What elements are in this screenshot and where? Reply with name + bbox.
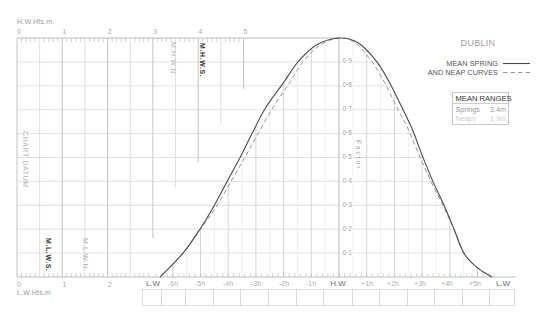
factor-tick: 0·6 [343,129,353,136]
mean-ranges-box: MEAN RANGES Springs 3.4m Neaps 1.9m [453,93,512,125]
time-label: +2h [387,280,399,287]
factor-tick: 0·3 [343,201,353,208]
time-axis-labels: L.W -6h -5h -4h -3h -2h -1h H.W +1h +2h … [146,279,511,288]
mlwn-label: M.L.W.N. [82,238,89,272]
lw-tick: 2 [108,281,112,288]
legend: MEAN SPRING AND NEAP CURVES [428,59,530,77]
time-label: +4h [441,280,453,287]
lw-heights-label: L.W.Hts.m [17,289,51,296]
time-label: -1h [306,280,316,287]
time-label: +5h [469,280,481,287]
time-entry-cell[interactable] [353,290,380,306]
factor-tick: 0·2 [343,225,353,232]
mhws-label: M.H.W.S. [199,43,206,77]
hw-tick: 5 [244,28,248,35]
legend-spring-label: MEAN SPRING [446,59,498,68]
time-entry-cell[interactable] [162,290,186,306]
factor-tick: 0·1 [343,249,353,256]
factor-tick: 0·8 [343,81,353,88]
time-entry-cell[interactable] [186,290,214,306]
hw-tick: 4 [199,28,203,35]
mean-ranges-title: MEAN RANGES [456,94,512,103]
time-entry-cell[interactable] [408,290,435,306]
lw-tick: 1 [63,281,67,288]
factor-tick: 0·5 [343,153,353,160]
time-entry-cell[interactable] [143,290,162,306]
port-title: DUBLIN [461,38,496,48]
lw-height-ticks: 0 1 2 [17,281,112,288]
time-label-hw: H.W [330,279,346,288]
hw-tick: 0 [17,28,21,35]
time-entry-cell[interactable] [463,290,490,306]
factor-tick: 0·7 [343,105,353,112]
time-entry-cell[interactable] [269,290,297,306]
legend-neap-label: AND NEAP CURVES [428,68,498,77]
time-label: +3h [414,280,426,287]
hw-tick: 1 [63,28,67,35]
factor-ticks: 0·9 0·8 0·7 0·6 0·5 0·4 0·3 0·2 0·1 [343,57,353,255]
mhwn-label: M.H.W.N. [170,42,177,77]
time-label-lw-end: L.W [496,279,511,288]
factor-tick: 0·9 [343,57,353,64]
time-label: +1h [361,280,373,287]
time-entry-cell[interactable] [214,290,241,306]
hw-heights-label: H.W.Hts.m. [17,18,54,25]
neaps-label: Neaps [456,114,477,123]
time-entry-cell[interactable] [324,290,353,306]
hw-tick: 3 [153,28,157,35]
time-label-lw-start: L.W [146,279,161,288]
time-entry-cell[interactable] [297,290,324,306]
factor-axis-label: Factor [355,140,362,170]
lw-tick: 0 [17,281,21,288]
chart-datum-label: CHART DATUM [22,131,29,188]
time-entry-cell[interactable] [490,290,515,306]
time-entry-cell[interactable] [380,290,408,306]
time-label: -3h [251,280,261,287]
time-entry-cell[interactable] [435,290,463,306]
mlws-label: M.L.W.S. [45,238,52,272]
time-entry-cell[interactable] [241,290,269,306]
time-label: -6h [168,280,178,287]
factor-gridlines [17,62,520,253]
time-label: -2h [279,280,289,287]
neaps-value: 1.9m [490,114,506,123]
time-label: -4h [223,280,233,287]
factor-tick: 0·4 [343,177,353,184]
tidal-curve-chart: H.W.Hts.m. 0 1 2 3 4 5 0 1 2 L.W.Hts.m C… [0,0,547,317]
hw-height-ticks: 0 1 2 3 4 5 [17,28,248,35]
hw-tick: 2 [108,28,112,35]
time-label: -5h [195,280,205,287]
time-entry-row [143,290,515,306]
